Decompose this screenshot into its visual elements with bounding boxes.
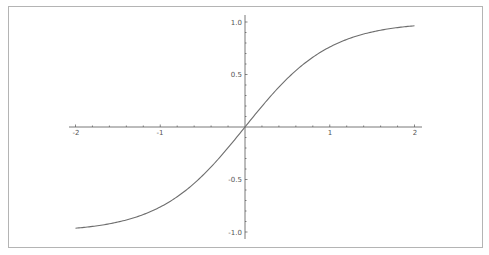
x-tick-label: -1 (157, 129, 164, 137)
y-tick-label: 1.0 (231, 19, 242, 27)
y-tick-label: -0.5 (228, 176, 242, 184)
y-tick-labels: 1.0 0.5 -0.5 -1.0 (228, 19, 242, 237)
x-tick-label: -2 (73, 129, 80, 137)
y-tick-label: -1.0 (228, 229, 242, 237)
y-tick-label: 0.5 (231, 71, 242, 79)
x-tick-label: 1 (328, 129, 332, 137)
plot-svg: -2 -1 1 2 1.0 0.5 -0.5 -1.0 (0, 0, 489, 255)
x-tick-label: 2 (413, 129, 417, 137)
